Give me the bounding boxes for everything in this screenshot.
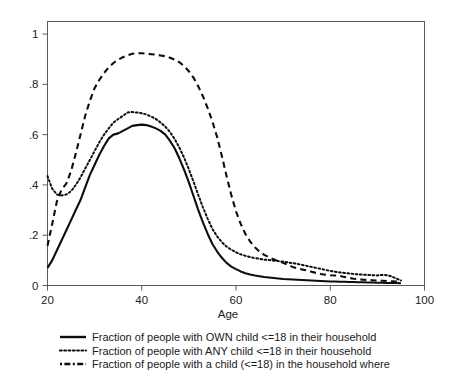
line-chart-svg: 0.2.4.6.81 20406080100 Age Fraction of p… (0, 0, 450, 372)
chart-figure: 0.2.4.6.81 20406080100 Age Fraction of p… (0, 0, 450, 372)
legend-label: Fraction of people with ANY child <=18 i… (92, 345, 371, 357)
y-tick-label: .8 (29, 78, 39, 90)
y-tick-label: .4 (29, 179, 39, 191)
x-tick-label: 20 (41, 294, 54, 306)
chart-legend: Fraction of people with OWN child <=18 i… (60, 331, 390, 370)
y-tick-label: .6 (29, 129, 39, 141)
y-tick-label: .2 (29, 229, 39, 241)
legend-label: Fraction of people with a child (<=18) i… (92, 358, 390, 370)
legend-label: Fraction of people with OWN child <=18 i… (92, 331, 376, 343)
x-tick-label: 40 (135, 294, 148, 306)
x-tick-label: 80 (324, 294, 337, 306)
x-axis-title: Age (218, 308, 238, 320)
y-tick-label: 0 (32, 280, 38, 292)
x-tick-label: 60 (230, 294, 243, 306)
x-tick-label: 100 (415, 294, 434, 306)
y-tick-label: 1 (32, 28, 38, 40)
